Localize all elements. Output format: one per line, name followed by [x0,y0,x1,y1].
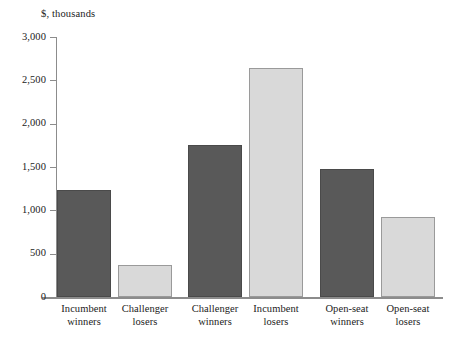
category-label: Incumbentlosers [236,303,316,328]
y-axis-tick-label-text: 2,500 [2,75,46,85]
bar [57,190,111,297]
y-axis-tick [50,210,56,211]
category-label: Challengerlosers [105,303,185,328]
y-axis-tick-label: 2,000 [0,118,46,128]
y-axis-tick-label: 1,500 [0,162,46,172]
y-axis-tick-label-text: 3,000 [2,32,46,42]
bar [118,265,172,297]
y-axis-unit-caption: $, thousands [41,8,95,19]
bar [381,217,435,297]
y-axis-tick-label-text: 0 [2,292,46,302]
bar [249,68,303,297]
y-axis-tick [50,167,56,168]
category-label-line1: Incumbent [61,303,106,314]
category-label-line2: losers [368,316,448,329]
category-label: Open-seatlosers [368,303,448,328]
y-axis-tick [50,37,56,38]
y-axis-tick [50,124,56,125]
y-axis-tick-label: 500 [0,248,46,258]
y-axis-tick-label: 3,000 [0,32,46,42]
plot-area [57,37,443,297]
category-label-line1: Open-seat [325,303,368,314]
category-label-line2: losers [105,316,185,329]
y-axis-tick-label: 2,500 [0,75,46,85]
y-axis-tick-label: 0 [0,292,46,302]
y-axis-tick-label-text: 500 [2,248,46,258]
category-label-line1: Challenger [192,303,239,314]
y-axis-tick [50,297,56,298]
y-axis-tick [50,80,56,81]
y-axis-tick [50,254,56,255]
bar [188,145,242,297]
bar-chart: $, thousands 05001,0001,5002,0002,5003,0… [0,0,453,344]
category-label-line1: Challenger [122,303,169,314]
x-axis-line [42,297,443,299]
category-label-line1: Incumbent [253,303,298,314]
category-label-line1: Open-seat [386,303,429,314]
y-axis-tick-label-text: 1,000 [2,205,46,215]
bar [320,169,374,297]
y-axis-tick-label-text: 2,000 [2,118,46,128]
y-axis-tick-label-text: 1,500 [2,162,46,172]
y-axis-tick-label: 1,000 [0,205,46,215]
category-label-line2: losers [236,316,316,329]
